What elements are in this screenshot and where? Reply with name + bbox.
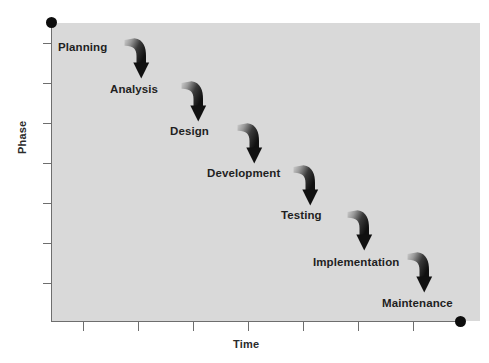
y-axis-tick — [43, 163, 51, 164]
x-axis-end-dot — [455, 316, 466, 327]
arrow-planning-to-analysis — [121, 36, 153, 82]
arrow-head — [133, 63, 149, 79]
curved-arrow-icon — [234, 121, 266, 167]
arrow-development-to-testing — [290, 163, 322, 209]
curved-arrow-icon — [344, 208, 376, 254]
arrow-implementation-to-maintenance — [404, 250, 436, 296]
y-axis-tick — [43, 123, 51, 124]
phase-label-implementation: Implementation — [313, 256, 399, 268]
phase-label-development: Development — [207, 167, 280, 179]
arrow-testing-to-implementation — [344, 208, 376, 254]
arrow-head — [356, 235, 372, 251]
x-axis-tick — [248, 322, 249, 331]
curved-arrow-icon — [404, 250, 436, 296]
arrow-head — [246, 148, 262, 164]
x-axis-tick — [358, 322, 359, 331]
x-axis-tick — [413, 322, 414, 331]
waterfall-model-diagram: Phase Time PlanningAnalysisDesignDevelop… — [0, 0, 489, 363]
arrow-shaft — [408, 252, 430, 277]
x-axis-line — [51, 321, 460, 322]
x-axis-title: Time — [233, 338, 259, 350]
y-axis-tick — [43, 283, 51, 284]
y-axis-tick — [43, 243, 51, 244]
arrow-shaft — [125, 38, 147, 63]
y-axis-tick — [43, 43, 51, 44]
phase-label-maintenance: Maintenance — [382, 297, 453, 309]
phase-label-analysis: Analysis — [110, 83, 158, 95]
arrow-shaft — [294, 165, 316, 190]
y-axis-line — [51, 23, 52, 321]
arrow-head — [302, 190, 318, 206]
arrow-shaft — [238, 123, 260, 148]
arrow-head — [190, 106, 206, 122]
arrow-head — [416, 277, 432, 293]
curved-arrow-icon — [121, 36, 153, 82]
phase-label-design: Design — [170, 125, 209, 137]
arrow-shaft — [348, 210, 370, 235]
y-axis-end-dot — [46, 17, 57, 28]
arrow-design-to-development — [234, 121, 266, 167]
curved-arrow-icon — [178, 79, 210, 125]
x-axis-tick — [138, 322, 139, 331]
y-axis-title: Phase — [16, 121, 28, 154]
arrow-shaft — [182, 81, 204, 106]
phase-label-testing: Testing — [281, 209, 322, 221]
phase-label-planning: Planning — [58, 41, 107, 53]
arrow-analysis-to-design — [178, 79, 210, 125]
x-axis-tick — [193, 322, 194, 331]
x-axis-tick — [83, 322, 84, 331]
y-axis-tick — [43, 203, 51, 204]
y-axis-tick — [43, 83, 51, 84]
curved-arrow-icon — [290, 163, 322, 209]
x-axis-tick — [303, 322, 304, 331]
